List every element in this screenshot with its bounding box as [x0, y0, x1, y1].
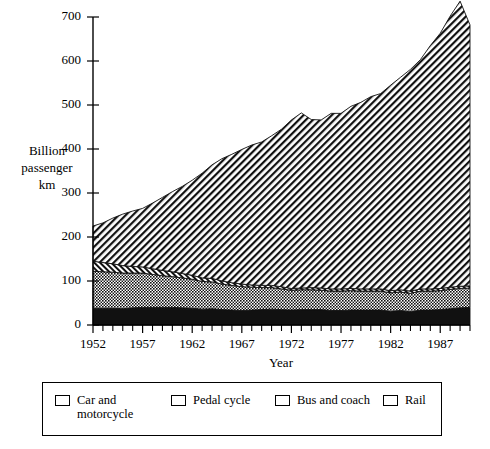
- legend-items-container: Car and motorcycle Pedal cycle Bus and c…: [43, 383, 441, 435]
- chart-legend: Car and motorcycle Pedal cycle Bus and c…: [42, 382, 442, 436]
- legend-label-bus-and-coach: Bus and coach: [297, 393, 370, 407]
- legend-swatch-pedal-cycle: [171, 395, 186, 406]
- legend-label-rail: Rail: [405, 393, 426, 407]
- x-tick-label-1987: 1987: [427, 336, 454, 351]
- legend-swatch-rail: [383, 395, 398, 406]
- y-axis-title-line-2: passenger: [21, 160, 73, 175]
- y-tick-label-500: 500: [62, 96, 82, 111]
- x-tick-label-1982: 1982: [378, 336, 404, 351]
- legend-label-car-and-motorcycle: Car and motorcycle: [77, 393, 133, 421]
- area-series-car-and-motorcycle: [93, 1, 470, 291]
- y-tick-label-700: 700: [62, 8, 82, 23]
- legend-item-rail: Rail: [383, 393, 426, 407]
- x-tick-label-1952: 1952: [80, 336, 106, 351]
- legend-swatch-car-and-motorcycle: [55, 395, 70, 406]
- x-axis-title: Year: [269, 355, 294, 370]
- plot-areas: [93, 1, 470, 325]
- y-tick-label-100: 100: [62, 272, 82, 287]
- x-tick-label-1967: 1967: [229, 336, 256, 351]
- legend-item-bus-and-coach: Bus and coach: [275, 393, 370, 407]
- y-tick-label-300: 300: [62, 184, 82, 199]
- x-tick-label-1962: 1962: [179, 336, 205, 351]
- y-tick-label-600: 600: [62, 52, 82, 67]
- y-axis-title-line-1: Billion: [29, 143, 66, 158]
- legend-item-pedal-cycle: Pedal cycle: [171, 393, 250, 407]
- x-tick-label-1972: 1972: [278, 336, 304, 351]
- legend-label-pedal-cycle: Pedal cycle: [193, 393, 250, 407]
- x-tick-label-1977: 1977: [328, 336, 355, 351]
- legend-item-car-and-motorcycle: Car and motorcycle: [55, 393, 133, 421]
- y-tick-label-0: 0: [75, 316, 82, 331]
- legend-swatch-bus-and-coach: [275, 395, 290, 406]
- y-axis-title-line-3: km: [39, 177, 56, 192]
- y-tick-label-200: 200: [62, 228, 82, 243]
- stacked-area-chart: 0100200300400500600700195219571962196719…: [0, 0, 490, 449]
- x-tick-label-1957: 1957: [130, 336, 157, 351]
